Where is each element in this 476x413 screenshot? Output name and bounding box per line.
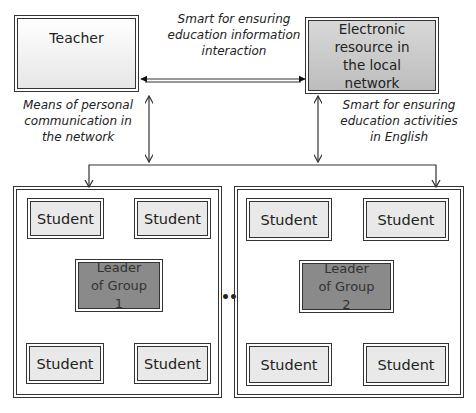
teacher-link-label: Means of personal communication in the n… (22, 97, 134, 145)
top-connection-label: Smart for ensuring education information… (158, 11, 310, 59)
student-label: Student (260, 357, 317, 373)
student-label: Student (37, 211, 94, 227)
group1-student-top-right: Student (137, 201, 208, 236)
student-label: Student (377, 212, 434, 228)
group1-leader: Leader of Group 1 (78, 262, 160, 309)
leader-label: Leader of Group 2 (317, 260, 377, 314)
group2-student-bottom-right: Student (366, 346, 446, 383)
student-label: Student (377, 357, 434, 373)
student-label: Student (260, 212, 317, 228)
group2-student-top-left: Student (249, 201, 329, 238)
leader-label: Leader of Group 1 (89, 259, 149, 313)
student-label: Student (36, 356, 93, 372)
group2-student-top-right: Student (366, 201, 446, 238)
teacher-label: Teacher (49, 30, 103, 46)
resource-link-label: Smart for ensuring education activities … (340, 97, 458, 145)
group2-leader: Leader of Group 2 (302, 263, 391, 310)
group2-student-bottom-left: Student (249, 346, 329, 383)
student-label: Student (144, 356, 201, 372)
teacher-node: Teacher (17, 18, 136, 89)
student-label: Student (144, 211, 201, 227)
electronic-resource-node: Electronic resource in the local network (308, 20, 436, 91)
electronic-resource-label: Electronic resource in the local network (322, 20, 422, 92)
group1-student-bottom-left: Student (29, 346, 101, 381)
group1-student-top-left: Student (30, 201, 101, 236)
group1-student-bottom-right: Student (137, 346, 208, 381)
